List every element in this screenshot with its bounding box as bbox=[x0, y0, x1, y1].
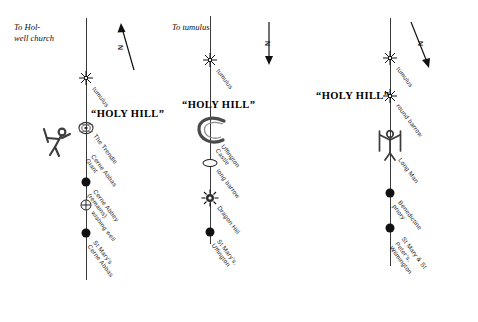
node-label-uffington-castle: Uffington Castle bbox=[214, 143, 253, 188]
node-label-dragon-hill: Dragon Hill bbox=[216, 204, 242, 235]
marker-wishing-well-cerne bbox=[81, 200, 92, 211]
compass-label-uffington: N bbox=[264, 41, 271, 46]
marker-dot-st-mary-st-peters bbox=[386, 224, 395, 233]
node-label-st-mary-st-peters: St Mary & St Peter’s, Wilmington bbox=[388, 235, 441, 295]
compass-uffington: N bbox=[258, 20, 280, 66]
node-label-st-marys-uffington: St Mary’s, Uffington bbox=[210, 238, 249, 283]
to-caption-cerne: To Hol- well church bbox=[14, 22, 54, 44]
holy-hill-title-cerne: “HOLY HILL” bbox=[91, 108, 164, 119]
node-label-st-marys-cerne: St Mary’s Cerne Abbas bbox=[86, 239, 125, 284]
marker-star-round-barrow bbox=[383, 89, 398, 104]
compass-label-cerne: N bbox=[117, 45, 124, 50]
column-wilmington: N tumulus “HOLY HILL” bbox=[320, 0, 478, 322]
compass-wilmington: N bbox=[405, 18, 445, 70]
alignment-axis-cerne bbox=[86, 18, 87, 280]
marker-trendle-cerne bbox=[78, 121, 95, 136]
marker-dot-cerne-abbey bbox=[82, 178, 91, 187]
node-label-tumulus-cerne: tumulus bbox=[91, 85, 111, 108]
column-uffington: To tumulus N tumulus “HOLY HILL” bbox=[160, 0, 320, 322]
compass-cerne: N bbox=[108, 20, 146, 72]
node-label-tumulus-uffington: tumulus bbox=[215, 67, 235, 90]
to-caption-uffington: To tumulus bbox=[172, 22, 210, 33]
marker-long-barrow bbox=[203, 159, 218, 167]
node-label-benedictine-priory: Benedictine priory bbox=[391, 199, 430, 244]
marker-cerne-giant-figure bbox=[38, 125, 78, 159]
marker-dragon-hill-sunburst bbox=[202, 190, 219, 207]
marker-star-tumulus-uffington bbox=[203, 53, 218, 68]
marker-dot-st-marys-uffington bbox=[206, 228, 215, 237]
node-label-long-man: Long Man bbox=[397, 156, 420, 184]
compass-label-wilmington: N bbox=[417, 41, 424, 46]
marker-dot-st-marys-cerne bbox=[82, 229, 91, 238]
alignment-diagram: To Hol- well church N tumulus “HOLY bbox=[0, 0, 478, 322]
holy-hill-title-uffington: “HOLY HILL” bbox=[182, 99, 255, 110]
column-cerne-abbas: To Hol- well church N tumulus “HOLY bbox=[0, 0, 160, 322]
marker-star-tumulus-cerne bbox=[79, 71, 94, 86]
marker-star-tumulus-wilmington bbox=[383, 51, 398, 66]
marker-uffington-castle-horse bbox=[196, 115, 230, 145]
holy-hill-title-wilmington: “HOLY HILL” bbox=[316, 90, 389, 101]
marker-dot-benedictine-priory bbox=[386, 189, 395, 198]
